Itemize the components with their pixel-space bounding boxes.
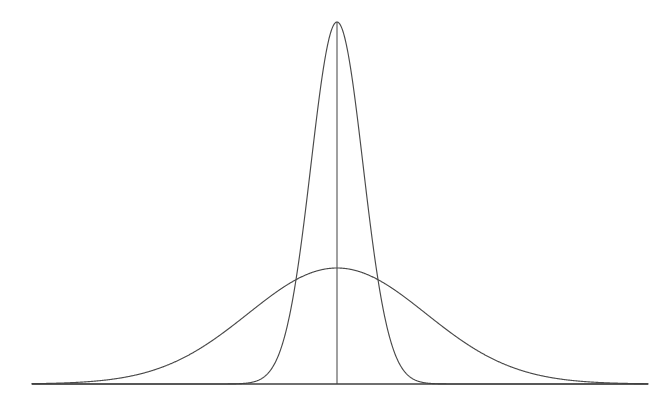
chart-background bbox=[0, 0, 667, 401]
chart-canvas bbox=[0, 0, 667, 401]
normal-curves-figure bbox=[0, 0, 667, 401]
